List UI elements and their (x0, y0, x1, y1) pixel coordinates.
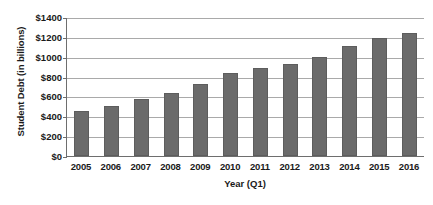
x-tick-label: 2012 (275, 160, 305, 176)
bar-slot (97, 18, 127, 156)
bar-slot (156, 18, 186, 156)
y-tick-label: $200 (24, 132, 62, 142)
bar (74, 111, 89, 156)
bar (164, 93, 179, 156)
x-tick-label: 2015 (364, 160, 394, 176)
x-tick-label: 2016 (394, 160, 424, 176)
bar (342, 46, 357, 156)
bar-slot (127, 18, 157, 156)
bar-slot (216, 18, 246, 156)
bar-slot (365, 18, 395, 156)
bar-slot (67, 18, 97, 156)
y-tick-label: $0 (24, 152, 62, 162)
x-tick-label: 2007 (126, 160, 156, 176)
x-tick-label: 2009 (185, 160, 215, 176)
bar-chart-figure: Student Debt (in billions) $0$200$400$60… (0, 0, 433, 205)
bar (223, 73, 238, 156)
x-tick-label: 2006 (96, 160, 126, 176)
bar (193, 84, 208, 156)
bar-slot (394, 18, 424, 156)
x-tick-label: 2010 (215, 160, 245, 176)
bar (372, 38, 387, 156)
y-axis-tick-labels: $0$200$400$600$800$1000$1200$1400 (24, 18, 62, 157)
y-tick-label: $1000 (24, 53, 62, 63)
bar-slot (305, 18, 335, 156)
x-axis-tick-labels: 2005200620072008200920102011201220132014… (66, 160, 424, 176)
y-tick-label: $800 (24, 73, 62, 83)
x-tick-label: 2005 (66, 160, 96, 176)
bar-slot (246, 18, 276, 156)
bar-slot (186, 18, 216, 156)
bar-series (67, 18, 424, 156)
plot-area (66, 18, 424, 157)
bar (283, 64, 298, 156)
bar (104, 106, 119, 156)
x-axis-title: Year (Q1) (66, 178, 424, 189)
y-tick-label: $1200 (24, 33, 62, 43)
bar (402, 33, 417, 156)
y-tick-label: $600 (24, 92, 62, 102)
bar (134, 99, 149, 156)
y-tick-mark (63, 157, 67, 158)
x-tick-label: 2011 (245, 160, 275, 176)
bar (253, 68, 268, 156)
x-tick-label: 2014 (334, 160, 364, 176)
bar-slot (275, 18, 305, 156)
bar-slot (335, 18, 365, 156)
y-tick-label: $400 (24, 112, 62, 122)
bar (312, 57, 327, 156)
x-tick-label: 2013 (305, 160, 335, 176)
x-tick-label: 2008 (155, 160, 185, 176)
y-tick-label: $1400 (24, 13, 62, 23)
